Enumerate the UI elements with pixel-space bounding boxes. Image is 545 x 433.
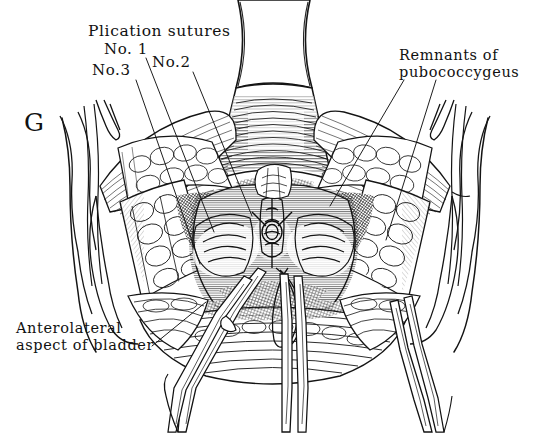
- label-remnants-line2: pubococcygeus: [399, 64, 519, 81]
- superior-tissue-tab: [255, 164, 292, 198]
- label-remnants-pubococcygeus: Remnants ofpubococcygeus: [399, 47, 519, 81]
- label-plication-sutures: Plication sutures: [88, 22, 231, 40]
- label-anterolateral-line2: aspect of bladder: [16, 337, 154, 354]
- label-remnants-line1: Remnants of: [399, 47, 498, 63]
- label-anterolateral-bladder: Anterolateralaspect of bladder: [16, 320, 154, 354]
- label-anterolateral-line1: Anterolateral: [16, 320, 122, 336]
- panel-letter-label: G: [24, 108, 44, 138]
- label-suture-no2: No.2: [152, 54, 191, 72]
- label-suture-no1: No. 1: [104, 41, 148, 59]
- surgical-illustration-figure: G Plication sutures No. 1 No.2 No.3 Remn…: [0, 0, 545, 433]
- label-suture-no3: No.3: [92, 62, 131, 80]
